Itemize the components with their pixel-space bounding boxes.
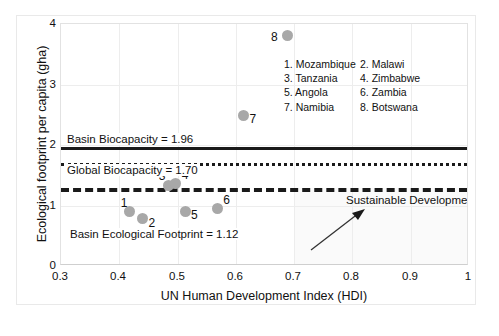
y-tick-2: 2 — [32, 138, 56, 150]
data-point-label-7: 7 — [249, 112, 256, 126]
data-point-label-1: 1 — [121, 196, 128, 210]
y-tick-3: 3 — [32, 78, 56, 90]
data-point-label-5: 5 — [191, 208, 198, 222]
x-tick-1: 1 — [448, 270, 488, 282]
data-point-7[interactable] — [238, 110, 249, 121]
reference-label-basin-biocapacity: Basin Biocapacity = 1.96 — [65, 133, 195, 145]
legend-row: 3. Tanzania 4. Zimbabwe — [284, 71, 440, 85]
data-point-2[interactable] — [137, 213, 148, 224]
x-tick-0.6: 0.6 — [215, 270, 255, 282]
y-tick-1: 1 — [32, 199, 56, 211]
legend-item-8: 8. Botswana — [360, 100, 440, 114]
x-tick-0.9: 0.9 — [390, 270, 430, 282]
legend-item-1: 1. Mozambique — [284, 57, 360, 71]
data-point-5[interactable] — [180, 206, 191, 217]
x-tick-0.7: 0.7 — [273, 270, 313, 282]
reference-label-global-biocapacity: Global Biocapacity = 1.70 — [65, 164, 200, 176]
legend-item-6: 6. Zambia — [360, 85, 440, 99]
data-point-label-8: 8 — [271, 30, 278, 44]
x-tick-0.4: 0.4 — [98, 270, 138, 282]
x-axis-ticks: 0.3 0.4 0.5 0.6 0.7 0.8 0.9 1 — [60, 270, 468, 286]
x-tick-0.3: 0.3 — [40, 270, 80, 282]
reference-line-basin-biocapacity — [61, 147, 467, 150]
data-point-label-6: 6 — [223, 193, 230, 207]
legend-row: 1. Mozambique 2. Malawi — [284, 57, 440, 71]
x-tick-0.8: 0.8 — [331, 270, 371, 282]
legend-item-3: 3. Tanzania — [284, 71, 360, 85]
x-axis-title: UN Human Development Index (HDI) — [60, 289, 468, 303]
data-point-8[interactable] — [282, 30, 293, 41]
gridline-y-2 — [61, 145, 467, 146]
x-tick-0.5: 0.5 — [157, 270, 197, 282]
reference-label-basin-footprint: Basin Ecological Footprint = 1.12 — [68, 228, 240, 240]
legend-item-5: 5. Angola — [284, 85, 360, 99]
legend-item-7: 7. Namibia — [284, 100, 360, 114]
legend-row: 7. Namibia 8. Botswana — [284, 100, 440, 114]
legend: 1. Mozambique 2. Malawi 3. Tanzania 4. Z… — [284, 57, 440, 114]
data-point-6[interactable] — [212, 203, 223, 214]
chart-figure: Ecological footprint per capita (gha) 0 … — [0, 0, 499, 336]
y-tick-4: 4 — [32, 17, 56, 29]
legend-item-2: 2. Malawi — [360, 57, 440, 71]
legend-item-4: 4. Zimbabwe — [360, 71, 440, 85]
legend-row: 5. Angola 6. Zambia — [284, 85, 440, 99]
annotation-sustainable-development: Sustainable Development — [346, 194, 468, 206]
reference-line-basin-footprint — [61, 188, 467, 192]
y-axis-ticks: 0 1 2 3 4 — [28, 23, 56, 265]
